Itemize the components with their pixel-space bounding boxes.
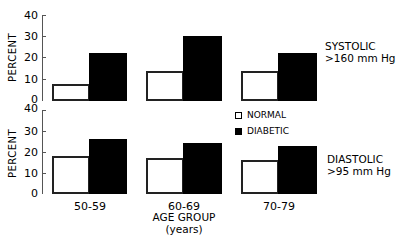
- bottom-tick-40: [42, 110, 46, 111]
- bottom-ticklabel-20: 20: [18, 147, 38, 158]
- bottom-bar-70-79-normal: [241, 160, 279, 194]
- top-tick-40: [42, 15, 46, 16]
- top-tick-30: [42, 36, 46, 37]
- bottom-tick-30: [42, 131, 46, 132]
- bottom-bar-50-59-normal: [52, 156, 90, 194]
- top-note-line2: >160 mm Hg: [325, 52, 396, 64]
- top-ticklabel-20: 20: [18, 52, 38, 63]
- top-ticklabel-10: 10: [18, 74, 38, 85]
- bottom-bar-70-79-diabetic: [278, 146, 317, 194]
- x-category-50-59: 50-59: [60, 200, 120, 213]
- x-axis-title-line2: (years): [144, 223, 224, 235]
- legend-diabetic: DIABETIC: [235, 126, 289, 136]
- top-ticklabel-30: 30: [18, 31, 38, 42]
- top-bar-70-79-normal: [241, 71, 279, 101]
- legend-normal: NORMAL: [235, 110, 286, 120]
- legend-normal-swatch: [235, 112, 242, 119]
- legend-diabetic-label: DIABETIC: [247, 126, 289, 136]
- legend-normal-label: NORMAL: [247, 110, 286, 120]
- top-y-axis-label: PERCENT: [7, 33, 18, 82]
- bottom-bar-60-69-normal: [146, 158, 184, 194]
- x-category-70-79: 70-79: [249, 200, 309, 213]
- bottom-tick-20: [42, 152, 46, 153]
- bottom-tick-10: [42, 173, 46, 174]
- x-axis-title-line1: AGE GROUP: [144, 211, 224, 223]
- bottom-bar-60-69-diabetic: [183, 143, 222, 194]
- top-bar-60-69-diabetic: [183, 36, 222, 101]
- x-axis-title: AGE GROUP (years): [144, 211, 224, 235]
- top-ticklabel-40: 40: [18, 10, 38, 21]
- bottom-panel-label: DIASTOLIC >95 mm Hg: [327, 153, 391, 177]
- top-bar-60-69-normal: [146, 71, 184, 101]
- bottom-ticklabel-0: 0: [18, 188, 38, 199]
- bottom-ticklabel-10: 10: [18, 168, 38, 179]
- bottom-ticklabel-40: 40: [18, 103, 38, 114]
- top-bar-50-59-diabetic: [89, 53, 127, 101]
- top-y-axis: [42, 15, 43, 101]
- top-panel-label: SYSTOLIC >160 mm Hg: [325, 40, 396, 64]
- top-bar-70-79-diabetic: [278, 53, 317, 101]
- bottom-ticklabel-30: 30: [18, 126, 38, 137]
- legend-diabetic-swatch: [235, 128, 242, 135]
- top-bar-50-59-normal: [52, 84, 90, 101]
- top-tick-20: [42, 57, 46, 58]
- top-note-line1: SYSTOLIC: [325, 40, 376, 52]
- bottom-bar-50-59-diabetic: [89, 139, 127, 194]
- bottom-note-line1: DIASTOLIC: [327, 153, 383, 165]
- top-tick-10: [42, 79, 46, 80]
- bottom-note-line2: >95 mm Hg: [327, 165, 391, 177]
- bottom-y-axis-label: PERCENT: [7, 129, 18, 178]
